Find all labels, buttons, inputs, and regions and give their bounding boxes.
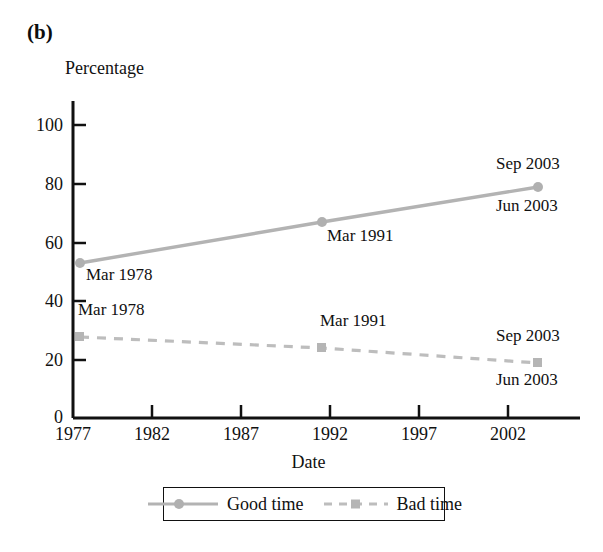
series-bad-time-marker <box>75 332 84 341</box>
series-good-time-marker <box>317 217 327 227</box>
annotation-good-sep-2003: Sep 2003 <box>496 154 560 174</box>
annotation-good-mar-1991: Mar 1991 <box>327 226 394 246</box>
y-tick-label-40: 40 <box>15 291 63 312</box>
y-tick-label-100: 100 <box>15 115 63 136</box>
annotation-bad-jun-2003: Jun 2003 <box>496 370 558 390</box>
legend-swatch-bad-time <box>322 497 390 511</box>
x-axis-title: Date <box>292 452 326 473</box>
series-bad-time-line <box>80 337 538 363</box>
x-tick-label-1997: 1997 <box>401 424 437 445</box>
legend-entry-bad-time: Bad time <box>322 494 463 515</box>
x-tick-label-2002: 2002 <box>490 424 526 445</box>
legend-entry-good-time: Good time <box>146 494 304 515</box>
legend: Good time Bad time <box>163 487 445 521</box>
x-tick-label-1977: 1977 <box>55 424 91 445</box>
annotation-bad-mar-1991: Mar 1991 <box>320 311 387 331</box>
series-bad-time-marker <box>533 358 542 367</box>
legend-swatch-good-time <box>146 497 220 511</box>
series-bad-time-marker <box>317 343 326 352</box>
x-tick-label-1987: 1987 <box>223 424 259 445</box>
series-good-time-line <box>80 187 538 263</box>
x-tick-label-1982: 1982 <box>134 424 170 445</box>
figure-panel-b: (b) Percentage 100 80 60 40 20 0 1977 <box>0 0 603 552</box>
series-good-time-marker <box>75 258 85 268</box>
y-tick-label-80: 80 <box>15 174 63 195</box>
annotation-bad-mar-1978: Mar 1978 <box>78 300 145 320</box>
annotation-good-jun-2003: Jun 2003 <box>496 196 558 216</box>
x-axis-title-wrap: Date <box>0 452 603 473</box>
x-tick-label-1992: 1992 <box>312 424 348 445</box>
y-tick-label-20: 20 <box>15 350 63 371</box>
legend-label-good-time: Good time <box>227 494 304 515</box>
series-good-time-marker <box>533 182 543 192</box>
annotation-bad-sep-2003: Sep 2003 <box>496 326 560 346</box>
legend-label-bad-time: Bad time <box>397 494 463 515</box>
y-tick-label-60: 60 <box>15 233 63 254</box>
annotation-good-mar-1978: Mar 1978 <box>86 265 153 285</box>
